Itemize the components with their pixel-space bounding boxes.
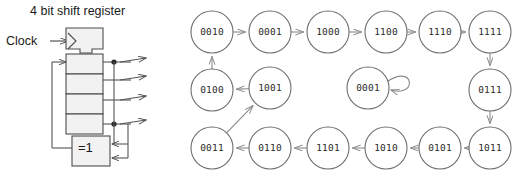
graph-node[interactable]: 1100	[365, 11, 407, 53]
output-arrow-3	[120, 96, 146, 100]
graph-node[interactable]: 1110	[419, 11, 461, 53]
graph-node-label: 1001	[258, 82, 282, 93]
graph-node-label: 1000	[316, 26, 340, 37]
graph-node-label: 1110	[428, 26, 452, 37]
graph-node[interactable]: 1010	[365, 127, 407, 169]
shift-register-schematic: 4 bit shift register Clock	[0, 0, 172, 180]
graph-node[interactable]: 1011	[469, 127, 511, 169]
graph-node-label: 1100	[374, 26, 398, 37]
xor-gate-label: =1	[78, 140, 93, 155]
graph-edge-self-loop	[388, 76, 409, 91]
state-transition-graph: 0010000110001100111011110100100100010111…	[172, 0, 515, 180]
graph-node-label: 1111	[478, 26, 502, 37]
clock-label: Clock	[6, 34, 38, 48]
graph-node[interactable]: 0100	[191, 69, 233, 111]
graph-node-label: 1011	[478, 142, 502, 153]
graph-node-label: 0101	[428, 142, 452, 153]
register-stage-4	[66, 114, 103, 134]
graph-node[interactable]: 0001	[249, 11, 291, 53]
output-arrow-2	[120, 76, 146, 80]
figure-root: 4 bit shift register Clock	[0, 0, 515, 180]
output-arrow-4	[120, 120, 146, 124]
circuit-panel: 4 bit shift register Clock	[0, 0, 172, 180]
graph-node[interactable]: 1001	[249, 67, 291, 109]
graph-node-label: 0010	[200, 26, 224, 37]
clock-block	[66, 28, 103, 53]
output-arrow-1	[120, 58, 146, 62]
graph-node[interactable]: 1000	[307, 11, 349, 53]
graph-node-label: 0001	[258, 26, 282, 37]
graph-node-label: 0001	[356, 82, 380, 93]
graph-edge	[227, 106, 253, 133]
state-graph-panel: 0010000110001100111011110100100100010111…	[172, 0, 515, 180]
graph-node-label: 0011	[200, 142, 224, 153]
graph-node[interactable]: 0010	[191, 11, 233, 53]
register-stage-2	[66, 74, 103, 94]
graph-node[interactable]: 1101	[307, 127, 349, 169]
graph-node-label: 1010	[374, 142, 398, 153]
graph-node[interactable]: 0111	[469, 69, 511, 111]
graph-node-layer: 0010000110001100111011110100100100010111…	[191, 11, 511, 169]
graph-node[interactable]: 0011	[191, 127, 233, 169]
graph-node[interactable]: 0101	[419, 127, 461, 169]
graph-node[interactable]: 0110	[249, 127, 291, 169]
register-stage-3	[66, 94, 103, 114]
circuit-title: 4 bit shift register	[30, 4, 125, 18]
graph-node-label: 1101	[316, 142, 340, 153]
graph-node-label: 0111	[478, 84, 502, 95]
graph-node[interactable]: 0001	[347, 67, 389, 109]
register-stage-1	[66, 54, 103, 74]
graph-node-label: 0110	[258, 142, 282, 153]
graph-node-label: 0100	[200, 84, 224, 95]
graph-node[interactable]: 1111	[469, 11, 511, 53]
